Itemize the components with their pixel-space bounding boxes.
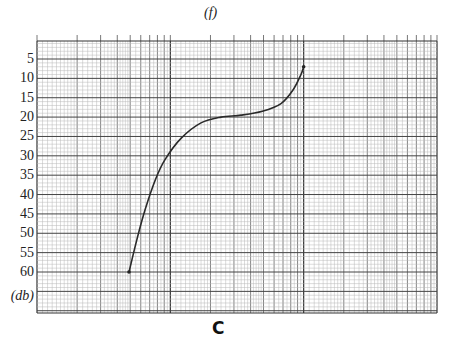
- y-tick-label: 5: [27, 52, 34, 66]
- y-tick-label: 15: [20, 91, 34, 105]
- y-tick-label: 10: [20, 71, 34, 85]
- y-tick-label: 60: [20, 265, 34, 279]
- chart-grid: [0, 0, 450, 351]
- y-tick-label: 40: [20, 188, 34, 202]
- curve-endpoint: [127, 270, 131, 274]
- y-tick-label: 55: [20, 246, 34, 260]
- y-tick-label: 20: [20, 110, 34, 124]
- y-tick-label: 30: [20, 149, 34, 163]
- figure-caption: C: [212, 318, 224, 338]
- y-tick-label: 35: [20, 168, 34, 182]
- curve-endpoint: [302, 65, 306, 69]
- y-tick-label: 45: [20, 207, 34, 221]
- y-tick-label: 50: [20, 226, 34, 240]
- y-tick-label: 25: [20, 129, 34, 143]
- x-axis-label: (f): [204, 5, 217, 21]
- y-axis-label: (db): [11, 289, 34, 303]
